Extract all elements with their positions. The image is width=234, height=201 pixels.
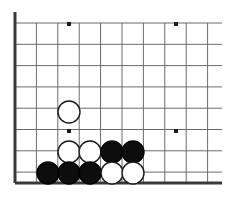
star-point <box>174 22 178 26</box>
star-point <box>67 22 71 26</box>
star-point <box>67 129 71 133</box>
black-stone[interactable] <box>58 162 80 184</box>
white-stone[interactable] <box>122 162 144 184</box>
black-stone[interactable] <box>79 162 101 184</box>
white-stone[interactable] <box>101 162 123 184</box>
black-stone[interactable] <box>37 162 59 184</box>
go-board[interactable] <box>0 0 234 201</box>
go-diagram-container <box>0 0 234 201</box>
star-point <box>174 129 178 133</box>
white-stone[interactable] <box>79 141 101 163</box>
white-stone[interactable] <box>58 101 80 123</box>
white-stone[interactable] <box>58 141 80 163</box>
black-stone[interactable] <box>122 141 144 163</box>
black-stone[interactable] <box>101 141 123 163</box>
